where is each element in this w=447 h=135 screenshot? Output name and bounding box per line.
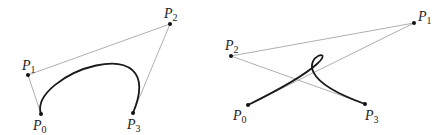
control-point-p2-left (168, 22, 172, 26)
label-p1-left: P1 (21, 58, 36, 75)
bezier-curves-figure: P0 P1 P2 P3 P0 P1 P2 P3 (0, 0, 447, 135)
control-point-p3-right (363, 102, 367, 106)
label-p0-left: P0 (32, 118, 47, 135)
label-p1-right: P1 (417, 9, 432, 26)
control-point-p2-right (229, 54, 233, 58)
diagram-left: P0 P1 P2 P3 (21, 6, 178, 135)
label-p3-right: P3 (364, 108, 379, 125)
control-point-p0-right (246, 103, 250, 107)
bezier-curve-right (248, 55, 365, 105)
label-p0-right: P0 (232, 108, 247, 125)
control-polygon-right (231, 23, 414, 105)
control-point-p1-left (26, 73, 30, 77)
label-p2-right: P2 (224, 38, 239, 55)
label-p3-left: P3 (126, 117, 141, 134)
control-point-p0-left (39, 112, 43, 116)
label-p2-left: P2 (163, 6, 178, 23)
bezier-curve-left (40, 64, 139, 114)
control-point-p1-right (412, 21, 416, 25)
diagram-right: P0 P1 P2 P3 (224, 9, 432, 125)
control-polygon-left (28, 24, 170, 114)
control-point-p3-left (131, 111, 135, 115)
